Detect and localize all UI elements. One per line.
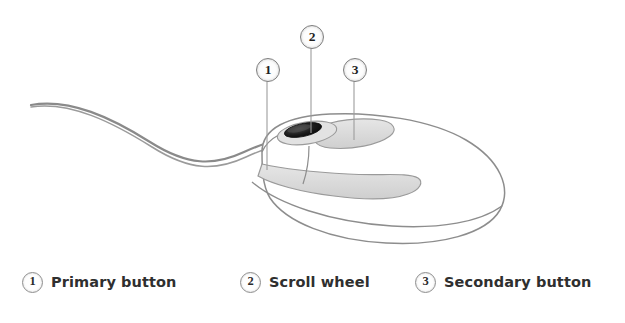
callout-marker-1: 1 (256, 58, 280, 82)
mouse-body (252, 114, 505, 244)
callout-number-1: 1 (265, 63, 272, 77)
legend-badge-number-1: 1 (29, 275, 35, 288)
legend-badge-3: 3 (415, 272, 436, 293)
legend: 1 Primary button 2 Scroll wheel 3 Second… (0, 267, 625, 301)
legend-item-secondary-button: 3 Secondary button (415, 269, 591, 295)
legend-badge-number-3: 3 (422, 275, 428, 288)
callout-number-3: 3 (352, 63, 359, 77)
mouse-diagram-figure: 1 2 3 1 Primary button 2 Scroll wheel 3 … (0, 0, 625, 323)
legend-item-scroll-wheel: 2 Scroll wheel (240, 269, 370, 295)
callout-number-2: 2 (309, 30, 316, 44)
callout-marker-3: 3 (343, 58, 367, 82)
legend-label-scroll-wheel: Scroll wheel (269, 274, 370, 290)
legend-item-primary-button: 1 Primary button (22, 269, 177, 295)
callout-marker-2: 2 (300, 25, 324, 49)
legend-badge-number-2: 2 (247, 275, 253, 288)
legend-badge-1: 1 (22, 272, 43, 293)
legend-label-primary-button: Primary button (51, 274, 177, 290)
legend-badge-2: 2 (240, 272, 261, 293)
legend-label-secondary-button: Secondary button (444, 274, 591, 290)
